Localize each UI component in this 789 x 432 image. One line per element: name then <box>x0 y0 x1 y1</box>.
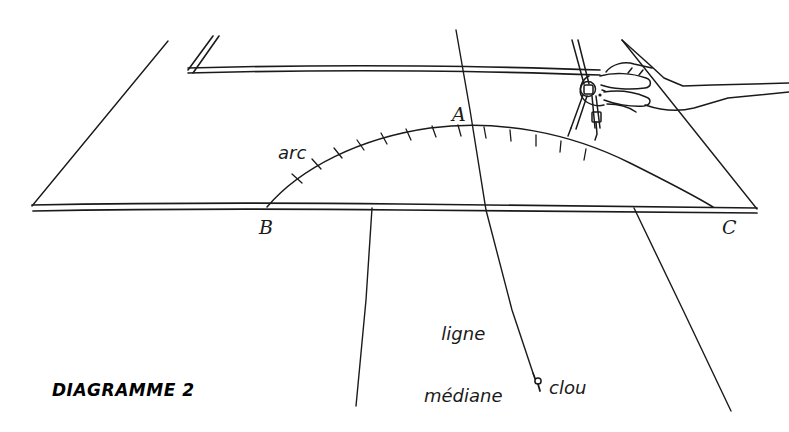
left-leg-line <box>356 208 372 406</box>
median-line-label: ligne médiane <box>424 283 503 432</box>
board-back-edge <box>188 66 600 75</box>
board-left-bevel <box>32 41 168 206</box>
nail-label: clou <box>549 377 586 398</box>
figure-caption: DIAGRAMME 2 <box>52 380 195 400</box>
arc-label: arc <box>278 142 306 163</box>
hand-icon <box>580 40 789 112</box>
point-c-label: C <box>722 216 737 238</box>
right-leg-line <box>634 208 731 411</box>
compass-tool-icon <box>568 40 605 140</box>
diagram-canvas: arc A B C ligne médiane clou DIAGRAMME 2 <box>0 0 789 432</box>
point-a-label: A <box>452 103 466 125</box>
arc-tick-marks <box>292 125 586 183</box>
diagram-svg <box>0 0 789 432</box>
median-line-label-line2: médiane <box>424 386 503 407</box>
nail-marker <box>533 373 541 391</box>
board-front-edge <box>32 203 757 213</box>
construction-arc <box>267 125 713 207</box>
point-b-label: B <box>259 216 273 238</box>
median-line-label-line1: ligne <box>424 324 503 345</box>
